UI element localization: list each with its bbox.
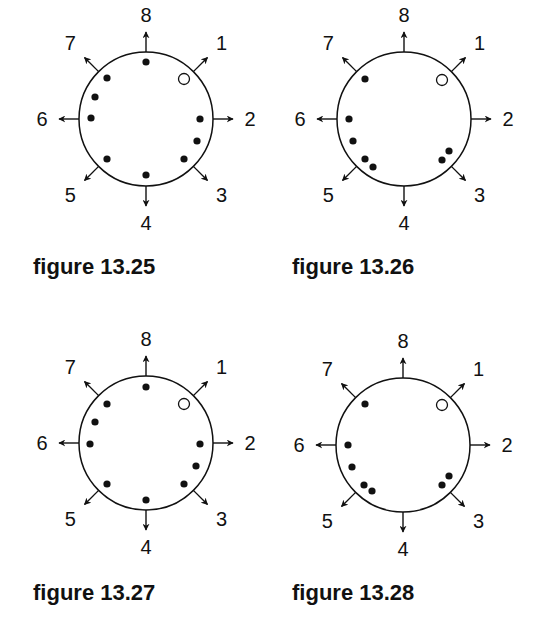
direction-arrow-7-icon [341,383,355,397]
filled-dot [180,155,187,162]
direction-label-3: 3 [216,508,227,530]
filled-dot [196,115,203,122]
direction-label-4: 4 [397,538,408,560]
direction-label-2: 2 [501,434,512,456]
figure-caption-13-25: figure 13.25 [33,254,155,280]
direction-label-6: 6 [36,432,47,454]
direction-label-8: 8 [397,330,408,352]
filled-dot [361,155,368,162]
filled-dot [180,480,187,487]
filled-dot [361,75,368,82]
filled-dot [360,481,367,488]
direction-arrow-5-icon [84,166,98,180]
direction-arrow-3-icon [193,490,207,504]
direction-arrow-5-icon [342,166,356,180]
direction-label-3: 3 [474,184,485,206]
filled-dot [87,114,94,121]
outline-circle [79,376,213,510]
direction-label-4: 4 [398,212,409,234]
direction-arrow-3-icon [451,166,465,180]
figure-caption-13-26: figure 13.26 [292,254,414,280]
direction-label-6: 6 [294,108,305,130]
direction-label-1: 1 [473,358,484,380]
direction-arrow-1-icon [451,57,465,71]
filled-dot [91,93,98,100]
filled-dot [142,58,149,65]
open-dot [179,74,190,85]
direction-label-8: 8 [140,4,151,26]
direction-label-8: 8 [140,328,151,350]
direction-diagram: 12345678 [294,4,513,234]
direction-label-3: 3 [216,184,227,206]
filled-dot [103,155,110,162]
direction-arrow-7-icon [84,57,98,71]
filled-dot [142,383,149,390]
filled-dot [438,156,445,163]
direction-label-5: 5 [65,184,76,206]
filled-dot [445,472,452,479]
direction-diagram: 12345678 [36,4,255,234]
direction-diagram: 12345678 [293,330,512,560]
direction-label-4: 4 [140,536,151,558]
direction-label-2: 2 [244,108,255,130]
direction-label-4: 4 [140,212,151,234]
direction-label-2: 2 [244,432,255,454]
filled-dot [103,74,110,81]
direction-label-5: 5 [65,508,76,530]
filled-dot [369,163,376,170]
direction-label-7: 7 [65,356,76,378]
direction-label-5: 5 [323,184,334,206]
filled-dot [192,462,199,469]
filled-dot [445,147,452,154]
outline-circle [337,52,471,186]
filled-dot [103,400,110,407]
filled-dot [345,115,352,122]
outline-circle [336,378,470,512]
direction-label-1: 1 [216,32,227,54]
direction-label-2: 2 [502,108,513,130]
filled-dot [196,440,203,447]
direction-arrow-7-icon [342,57,356,71]
direction-label-3: 3 [473,510,484,532]
filled-dot [349,137,356,144]
direction-arrow-1-icon [193,57,207,71]
filled-dot [142,171,149,178]
filled-dot [361,400,368,407]
filled-dot [438,481,445,488]
direction-arrow-7-icon [84,381,98,395]
filled-dot [344,441,351,448]
figure-caption-13-28: figure 13.28 [292,580,414,606]
open-dot [179,399,190,410]
direction-arrow-5-icon [341,492,355,506]
filled-dot [103,480,110,487]
open-dot [437,400,448,411]
direction-label-8: 8 [398,4,409,26]
filled-dot [91,418,98,425]
direction-label-7: 7 [65,32,76,54]
direction-label-1: 1 [216,356,227,378]
filled-dot [348,463,355,470]
direction-label-6: 6 [36,108,47,130]
direction-arrow-3-icon [193,166,207,180]
filled-dot [86,440,93,447]
figures-layer: 12345678123456781234567812345678 [36,4,513,560]
direction-arrow-5-icon [84,490,98,504]
direction-label-7: 7 [323,32,334,54]
outline-circle [79,52,213,186]
direction-label-5: 5 [322,510,333,532]
figure-caption-13-27: figure 13.27 [33,580,155,606]
direction-label-7: 7 [322,358,333,380]
filled-dot [368,487,375,494]
open-dot [437,75,448,86]
filled-dot [193,137,200,144]
direction-diagram: 12345678 [36,328,255,558]
direction-label-6: 6 [293,434,304,456]
direction-arrow-3-icon [450,492,464,506]
direction-label-1: 1 [474,32,485,54]
direction-arrow-1-icon [450,383,464,397]
figure-sheet: 12345678123456781234567812345678 [0,0,540,630]
direction-arrow-1-icon [193,381,207,395]
filled-dot [142,496,149,503]
